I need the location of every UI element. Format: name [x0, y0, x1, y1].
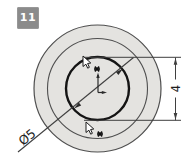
cad-sketch: 4 Ø5	[0, 0, 187, 166]
diameter-dimension-label: Ø5	[15, 126, 38, 149]
arrowhead-up-icon	[174, 58, 178, 65]
drawing-panel: 11 4 Ø5	[0, 0, 187, 166]
arrowhead-down-icon	[174, 113, 178, 120]
vertical-dimension-label: 4	[169, 85, 183, 92]
